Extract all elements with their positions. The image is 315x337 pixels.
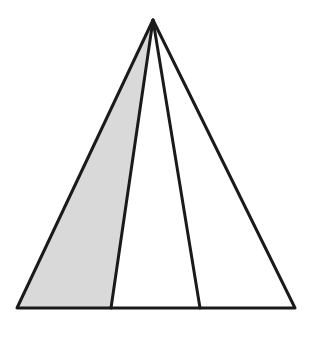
cevian-line-2 — [153, 20, 200, 308]
triangle-diagram — [0, 0, 315, 337]
diagram-canvas — [0, 0, 315, 337]
